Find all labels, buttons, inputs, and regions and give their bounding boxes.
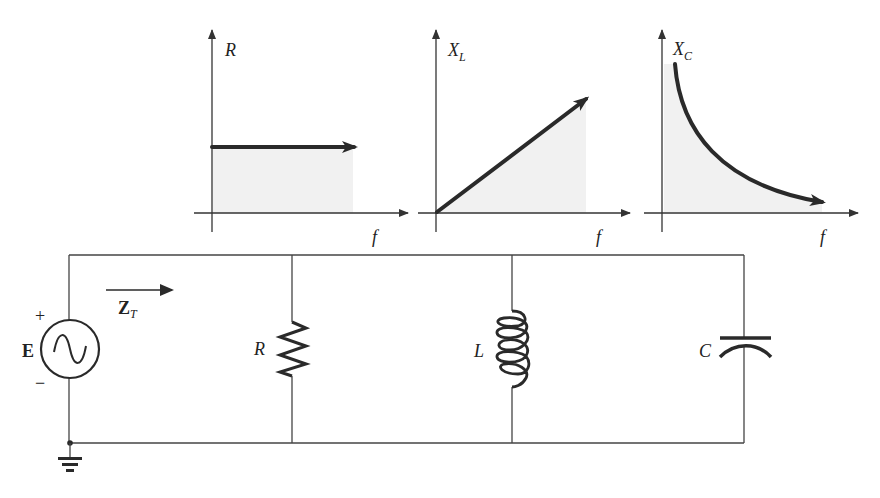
circuit-diagram: R f XL f XC f	[0, 0, 880, 498]
source-plus-sign: +	[35, 306, 45, 326]
ground-symbol	[58, 440, 82, 472]
resistor-zigzag-icon	[280, 322, 306, 376]
source-minus-sign: −	[35, 373, 45, 393]
capacitive-reactance-vs-frequency-plot: XC f	[644, 30, 858, 247]
capacitor-label: C	[699, 341, 712, 361]
total-impedance-indicator: ZT	[106, 290, 172, 321]
ac-voltage-source: + − E	[22, 306, 99, 393]
resistance-vs-frequency-plot: R f	[194, 30, 408, 247]
capacitor-curved-plate	[720, 346, 771, 357]
plot-shaded-area	[664, 64, 822, 212]
ground-bar-2	[62, 463, 78, 466]
inductive-reactance-vs-frequency-plot: XL f	[418, 30, 630, 247]
inductor: L	[473, 311, 529, 387]
x-axis-label: f	[596, 227, 604, 247]
resistor: R	[253, 322, 306, 376]
inductor-label: L	[473, 341, 484, 361]
y-axis-label: XC	[672, 39, 693, 63]
y-axis-label: R	[224, 40, 236, 60]
x-axis-label: f	[372, 227, 380, 247]
impedance-label: ZT	[118, 298, 138, 321]
plot-shaded-area	[213, 147, 353, 213]
inductor-coil-icon	[497, 311, 529, 387]
capacitor: C	[699, 338, 771, 361]
resistor-label: R	[253, 339, 265, 359]
ground-bar-3	[66, 469, 74, 472]
x-axis-label: f	[820, 227, 828, 247]
source-label: E	[22, 341, 34, 361]
circuit-wires	[69, 255, 744, 443]
ground-bar-1	[58, 457, 82, 460]
y-axis-label: XL	[447, 40, 466, 64]
